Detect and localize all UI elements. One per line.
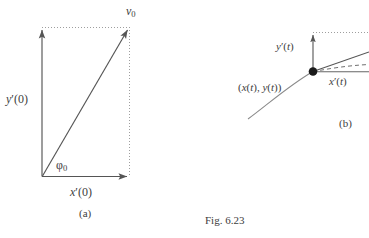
figure-6-23: v0 y′(0) x′(0) φ0 (a) y′((t)t) x′((t)t) … xyxy=(0,0,369,238)
panel-b-point-coordinates-label: (x(t), y(t)) xyxy=(238,82,281,93)
panel-b-graphics xyxy=(248,33,369,120)
panel-a-angle-label: φ0 xyxy=(56,159,67,173)
panel-a-y-component-label: y′(0) xyxy=(6,93,28,105)
panel-b-tag: (b) xyxy=(339,118,352,129)
panel-a-x-component-label: x′(0) xyxy=(70,186,92,198)
panel-a-velocity-label: v0 xyxy=(126,5,136,19)
panel-b-velocity-line xyxy=(313,52,369,72)
panel-a-graphics xyxy=(42,27,130,177)
panel-a-tag: (a) xyxy=(79,208,91,219)
panel-b-x-component-label: x′((t)t) xyxy=(329,76,347,87)
panel-a-velocity-vector xyxy=(43,30,128,176)
figure-caption: Fig. 6.23 xyxy=(205,215,244,226)
panel-b-y-component-label: y′((t)t) xyxy=(276,41,294,52)
panel-b-point-marker xyxy=(309,67,318,76)
panel-b-trajectory-curve xyxy=(248,72,313,120)
figure-vector-graphics xyxy=(0,0,369,238)
